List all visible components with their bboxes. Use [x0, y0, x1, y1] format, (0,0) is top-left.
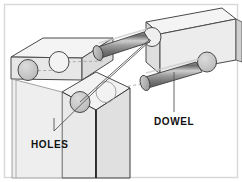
right-board-right-face: [236, 19, 242, 62]
vertical-board: [12, 72, 130, 178]
hole-left-board-outer: [18, 60, 38, 81]
label-dowel: DOWEL: [154, 116, 194, 127]
hole-left-board-inner: [49, 52, 69, 73]
label-holes: HOLES: [31, 139, 68, 150]
dowel-joint-figure: HOLES DOWEL: [0, 0, 242, 182]
vertical-board-left-extension: [12, 79, 62, 178]
dowel-joint-illustration: HOLES DOWEL: [0, 0, 242, 182]
